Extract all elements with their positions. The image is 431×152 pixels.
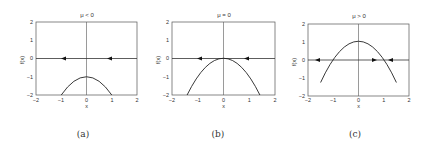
svg-text:−2: −2: [33, 97, 39, 103]
svg-text:−1: −1: [163, 74, 169, 80]
panel-a: μ < 0 2 1 0 −1 −2 −2 −1 0 1 2 x f(x): [0, 0, 145, 110]
svg-text:1: 1: [248, 97, 251, 103]
svg-text:−1: −1: [330, 97, 336, 103]
y-axis-label: f(x): [291, 58, 297, 66]
svg-text:2: 2: [302, 21, 305, 27]
y-axis-label: f(x): [19, 56, 25, 64]
panel-b-title: μ = 0: [217, 12, 231, 18]
svg-text:2: 2: [30, 19, 33, 25]
panel-a-title: μ < 0: [80, 12, 94, 18]
svg-text:2: 2: [166, 19, 169, 25]
svg-text:−1: −1: [195, 97, 201, 103]
panel-c: μ > 0 2 1 0 −1 −2 −2 −1 0 1 2 x f(x): [274, 0, 431, 110]
svg-text:1: 1: [110, 97, 113, 103]
svg-text:−1: −1: [299, 75, 305, 81]
caption-c: (c): [335, 129, 375, 139]
y-ticks: 2 1 0 −1 −2: [163, 19, 169, 98]
x-axis-label: x: [222, 103, 225, 109]
svg-text:−1: −1: [27, 74, 33, 80]
x-axis-label: x: [357, 103, 360, 109]
svg-text:−1: −1: [58, 97, 64, 103]
svg-text:1: 1: [382, 97, 385, 103]
svg-text:2: 2: [407, 97, 410, 103]
svg-text:0: 0: [302, 57, 305, 63]
svg-text:−2: −2: [169, 97, 175, 103]
svg-text:1: 1: [166, 37, 169, 43]
svg-text:0: 0: [166, 55, 169, 61]
caption-a: (a): [63, 129, 103, 139]
svg-text:−2: −2: [305, 97, 311, 103]
svg-text:1: 1: [302, 39, 305, 45]
svg-text:1: 1: [30, 37, 33, 43]
y-axis-label: f(x): [155, 56, 161, 64]
caption-b: (b): [198, 129, 238, 139]
panel-b: μ = 0 2 1 0 −1 −2 −2 −1 0 1 2 x f(x): [137, 0, 282, 110]
panel-c-title: μ > 0: [352, 13, 366, 19]
y-ticks: 2 1 0 −1 −2: [27, 19, 33, 98]
y-ticks: 2 1 0 −1 −2: [299, 21, 305, 99]
x-axis-label: x: [85, 103, 88, 109]
svg-text:0: 0: [30, 55, 33, 61]
